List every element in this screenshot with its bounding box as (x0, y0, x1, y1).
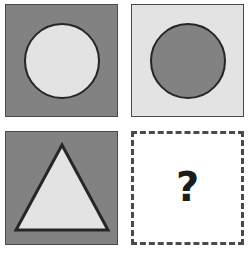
panel-square-dark (5, 4, 118, 117)
circle-shape-dark (150, 23, 226, 99)
matrix-puzzle: ? (0, 0, 249, 268)
matrix-cell-bottom-right-answer[interactable]: ? (131, 131, 244, 245)
circle-shape-light (24, 23, 100, 99)
panel-square-light (131, 4, 244, 117)
matrix-cell-top-left[interactable] (5, 4, 118, 117)
matrix-cell-bottom-left[interactable] (5, 131, 118, 245)
question-mark-icon: ? (176, 167, 199, 207)
panel-square-dark (5, 131, 118, 245)
answer-placeholder-dashed-box[interactable]: ? (131, 131, 244, 245)
matrix-cell-top-right[interactable] (131, 4, 244, 117)
triangle-shape-light (13, 142, 111, 234)
